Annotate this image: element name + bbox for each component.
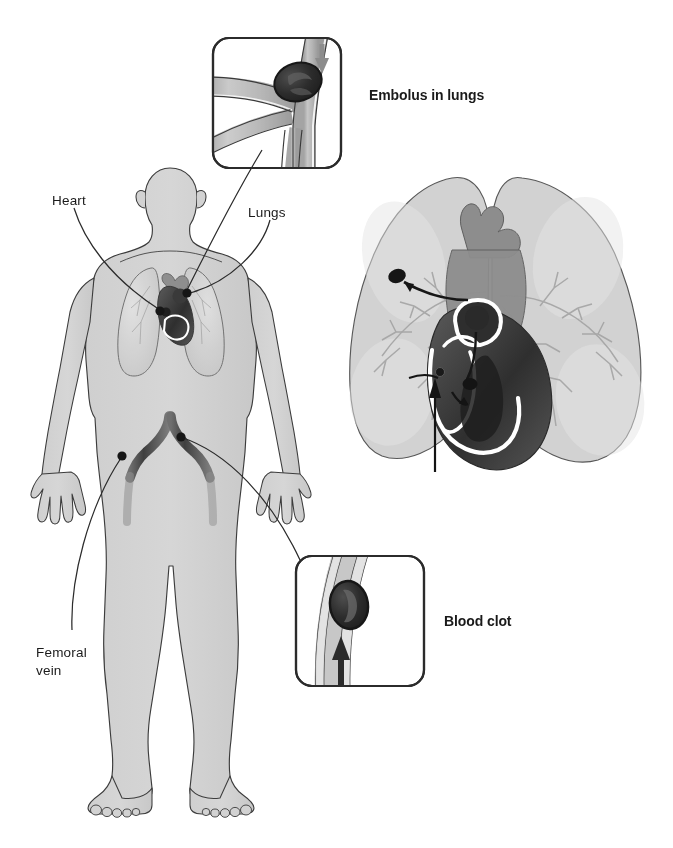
lungs-dot: [182, 288, 191, 297]
figure-canvas: Heart Lungs Femoral vein Embolus in lung…: [0, 0, 673, 848]
clot-inset: [296, 548, 424, 696]
label-femoral-vein-line1: Femoral: [36, 645, 87, 660]
heart-dot: [155, 306, 164, 315]
body-silhouette: [31, 168, 311, 817]
label-blood-clot: Blood clot: [444, 614, 511, 630]
label-embolus-in-lungs: Embolus in lungs: [369, 88, 484, 104]
label-heart: Heart: [52, 193, 86, 208]
femoral-vein-dot: [117, 451, 126, 460]
heart-lungs-detail: [341, 178, 653, 472]
embolus-inset: [205, 30, 341, 178]
clot-origin-dot: [176, 432, 185, 441]
label-lungs: Lungs: [248, 205, 286, 220]
label-femoral-vein-line2: vein: [36, 663, 62, 678]
illustration-layer: [0, 0, 673, 848]
